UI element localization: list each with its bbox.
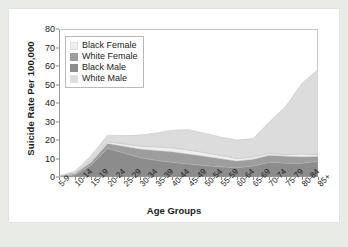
legend-swatch-icon [70, 53, 78, 61]
chart-screenshot: Suicide Rate Per 100,000 010203040506070… [0, 0, 348, 247]
chart-card: Suicide Rate Per 100,000 010203040506070… [9, 9, 339, 222]
legend-item[interactable]: Black Male [69, 62, 138, 73]
x-axis-tick-label: 35-39 [154, 167, 175, 188]
x-axis-tick-labels: 5-910-1415-1920-2425-2930-3435-3940-4445… [9, 9, 339, 222]
x-axis-tick-label: 40-44 [170, 167, 191, 188]
chart-plot-wrapper: Suicide Rate Per 100,000 010203040506070… [9, 9, 339, 222]
x-axis-title: Age Groups [9, 205, 339, 216]
legend-item-label: White Male [82, 73, 127, 84]
legend-item[interactable]: Black Female [69, 40, 138, 51]
legend-item[interactable]: White Male [69, 73, 138, 84]
x-axis-tick-label: 45-49 [187, 167, 208, 188]
legend-swatch-icon [70, 75, 78, 83]
legend-item[interactable]: White Female [69, 51, 138, 62]
x-axis-tick-label: 70-74 [267, 167, 288, 188]
x-axis-tick-label: 5-9 [57, 174, 72, 189]
x-axis-tick-label: 15-19 [89, 167, 110, 188]
legend-swatch-icon [70, 64, 78, 72]
legend-item-label: White Female [82, 51, 138, 62]
x-axis-tick-label: 30-34 [138, 167, 159, 188]
legend-swatch-icon [70, 42, 78, 50]
legend-item-label: Black Male [82, 62, 126, 73]
legend-item-label: Black Female [82, 40, 137, 51]
chart-legend: Black FemaleWhite FemaleBlack MaleWhite … [65, 36, 144, 88]
x-axis-tick-label: 75-79 [284, 167, 305, 188]
x-axis-tick-label: 60-64 [235, 167, 256, 188]
x-axis-tick-label: 20-24 [106, 167, 127, 188]
